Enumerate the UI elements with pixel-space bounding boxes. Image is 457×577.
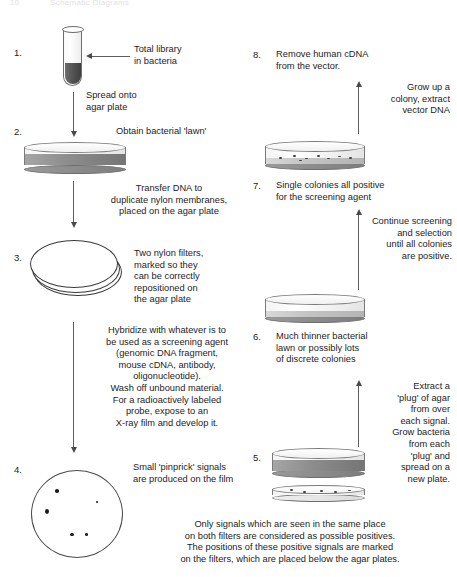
arrow-total-library	[92, 56, 130, 57]
colony-dot	[299, 160, 302, 162]
colony-dot	[317, 155, 320, 157]
label-continue-screening: Continue screening and selection until a…	[360, 216, 452, 262]
label-much-thinner-lawn: Much thinner bacterial lawn or possibly …	[276, 331, 406, 366]
dish-agar	[273, 460, 364, 471]
petri-dish-bacterial-lawn	[24, 142, 126, 170]
dish-agar	[266, 311, 364, 317]
dish-top-rim	[272, 448, 365, 459]
plate-dot	[320, 490, 323, 492]
colony-dot	[293, 155, 296, 157]
step-number-4: 4.	[14, 464, 22, 475]
tube-rim	[62, 26, 84, 33]
petri-dish-single-colonies	[265, 141, 365, 166]
pinprick-signal	[55, 489, 59, 493]
arrow-continue-screening	[358, 214, 359, 290]
label-hybridize-screening-agent: Hybridize with whatever is to be used as…	[84, 325, 250, 429]
step-number-5: 5.	[253, 452, 261, 463]
dish-agar	[266, 158, 364, 164]
plate-dot	[303, 491, 306, 493]
dish-agar	[25, 154, 125, 165]
step-number-3: 3.	[14, 252, 22, 263]
label-total-library: Total library in bacteria	[134, 44, 234, 67]
colony-dot	[338, 156, 341, 158]
arrow-grow-colony	[358, 86, 359, 134]
plate-dot	[290, 489, 293, 491]
label-grow-up-a-colony: Grow up a colony, extract vector DNA	[368, 82, 450, 117]
pinprick-signal	[45, 509, 49, 514]
step-number-2: 2.	[14, 126, 22, 137]
page-header: 10 Schematic Diagrams	[10, 0, 129, 7]
pinprick-signal	[85, 533, 88, 536]
x-ray-film-graphic	[31, 470, 123, 558]
plate-top-rim	[272, 485, 365, 494]
footer-caption: Only signals which are seen in the same …	[130, 519, 450, 565]
plate-base	[272, 494, 365, 502]
arrow-hybridize	[73, 322, 74, 448]
pinprick-signal	[70, 533, 74, 536]
label-single-colonies-positive: Single colonies all positive for the scr…	[276, 180, 426, 203]
nylon-filters-graphic	[30, 240, 118, 288]
arrow-extract-plug	[358, 385, 359, 447]
dish-top-rim	[24, 142, 126, 153]
header-title: Schematic Diagrams	[50, 0, 129, 7]
header-page-number: 10	[10, 0, 20, 7]
test-tube-graphic	[63, 26, 85, 90]
dish-top-rim	[265, 141, 365, 152]
tube-liquid	[65, 63, 81, 84]
petri-dish-thin-lawn	[265, 294, 365, 319]
step-number-7: 7.	[253, 180, 261, 191]
step-number-1: 1.	[14, 47, 22, 58]
dish-top-rim	[265, 294, 365, 305]
arrow-transfer-dna	[73, 181, 74, 223]
plate-dot	[334, 491, 337, 493]
filter-layer-top	[30, 240, 118, 288]
pinprick-signal	[96, 501, 98, 503]
arrow-spread-onto-plate	[73, 92, 74, 132]
plate-dot	[348, 490, 351, 492]
label-remove-human-cdna: Remove human cDNA from the vector.	[276, 49, 416, 72]
colony-dot	[279, 157, 282, 159]
label-spread-onto-agar-plate: Spread onto agar plate	[86, 90, 196, 113]
diagram-page: 10 Schematic Diagrams 1. Total library i…	[0, 0, 457, 577]
petri-dish-new-plate	[272, 448, 365, 474]
label-pinprick-signals: Small 'pinprick' signals are produced on…	[133, 462, 273, 485]
label-obtain-bacterial-lawn: Obtain bacterial 'lawn'	[116, 126, 256, 138]
colony-dot	[349, 157, 352, 159]
colony-dot	[327, 158, 330, 160]
step-number-6: 6.	[253, 331, 261, 342]
label-two-nylon-filters: Two nylon filters, marked so they can be…	[134, 248, 240, 306]
filter-plate-below-dish	[272, 485, 365, 499]
colony-dot	[305, 158, 308, 160]
step-number-8: 8.	[253, 49, 261, 60]
dish-base	[24, 165, 126, 174]
label-extract-plug-of-agar: Extract a 'plug' of agar from over each …	[368, 381, 450, 485]
tube-body	[63, 30, 82, 86]
label-transfer-dna: Transfer DNA to duplicate nylon membrane…	[84, 183, 254, 218]
